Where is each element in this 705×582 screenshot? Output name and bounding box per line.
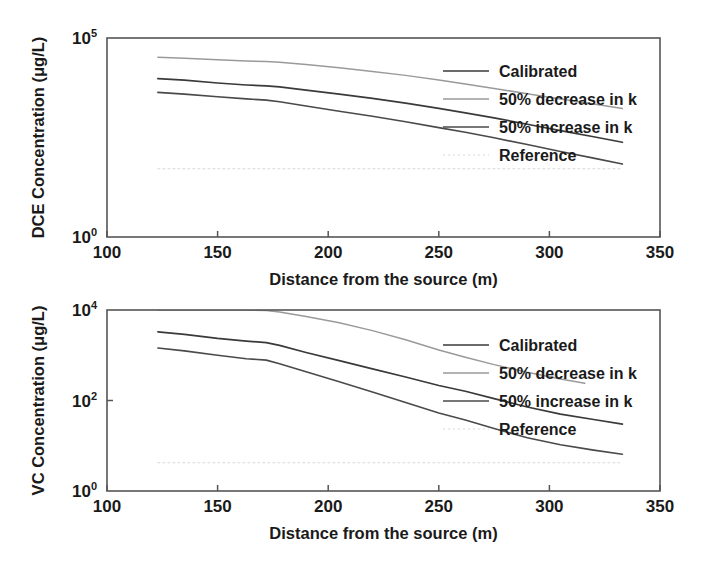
legend-label: Reference	[499, 147, 576, 164]
legend-label: 50% decrease in k	[499, 365, 637, 382]
x-tick-label: 300	[535, 497, 563, 516]
chart-panel-dce: 100150200250300350100105Distance from th…	[0, 0, 705, 291]
x-tick-label: 100	[93, 243, 121, 262]
figure-container: 100150200250300350100105Distance from th…	[0, 0, 705, 582]
x-axis: 100150200250300350	[93, 231, 674, 262]
dce-chart-svg: 100150200250300350100105Distance from th…	[0, 0, 705, 291]
x-tick-label: 350	[646, 243, 674, 262]
legend-label: 50% increase in k	[499, 393, 633, 410]
chart-panel-vc: 100150200250300350100102104Distance from…	[0, 291, 705, 582]
y-axis: 100105	[72, 27, 97, 247]
y-axis-title: DCE Concentration (μg/L)	[29, 37, 47, 239]
legend-label: Calibrated	[499, 337, 577, 354]
x-tick-label: 300	[535, 243, 563, 262]
series-group	[158, 310, 623, 463]
x-axis-title: Distance from the source (m)	[269, 270, 497, 288]
legend-label: Calibrated	[499, 63, 577, 80]
x-tick-label: 200	[314, 243, 342, 262]
legend-label: 50% increase in k	[499, 119, 633, 136]
x-tick-label: 350	[646, 497, 674, 516]
vc-chart-svg: 100150200250300350100102104Distance from…	[0, 291, 705, 582]
y-tick-label: 105	[72, 27, 97, 48]
x-tick-label: 150	[203, 243, 231, 262]
x-axis: 100150200250300350	[93, 485, 674, 516]
y-tick-label: 104	[72, 299, 98, 320]
x-tick-label: 250	[425, 497, 453, 516]
legend-label: Reference	[499, 421, 576, 438]
x-axis-title: Distance from the source (m)	[269, 524, 497, 542]
y-axis-title: VC Concentration (μg/L)	[29, 306, 47, 496]
legend-label: 50% decrease in k	[499, 91, 637, 108]
x-tick-label: 100	[93, 497, 121, 516]
x-tick-label: 150	[203, 497, 231, 516]
x-tick-label: 250	[425, 243, 453, 262]
x-tick-label: 200	[314, 497, 342, 516]
y-tick-label: 102	[72, 390, 97, 411]
